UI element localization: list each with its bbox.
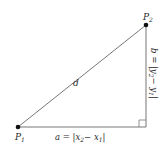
vertical-leg-label: b = |y2− y1| [148, 48, 159, 99]
point-p1 [16, 125, 21, 130]
point-p2 [144, 23, 149, 28]
distance-diagram: P2 P1 d a = |x2− x1| b = |y2− y1| [0, 0, 168, 152]
right-angle-marker [139, 120, 146, 127]
p1-label: P1 [14, 132, 25, 143]
hypotenuse-line [18, 25, 146, 127]
p2-label: P2 [142, 12, 153, 23]
hypotenuse-label: d [73, 78, 79, 88]
horizontal-leg-label: a = |x2− x1| [55, 132, 105, 143]
